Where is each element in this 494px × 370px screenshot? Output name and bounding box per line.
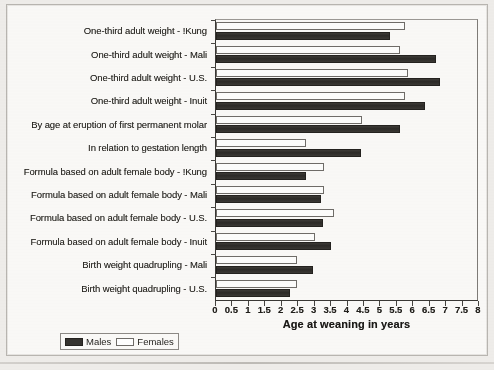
x-axis-tick-label: 1: [245, 304, 250, 315]
bar-row: [216, 207, 477, 230]
category-label: Formula based on adult female body - Inu…: [0, 230, 211, 253]
x-axis-tick-label: 7: [442, 304, 447, 315]
bar-row: [216, 184, 477, 207]
bar-males: [216, 289, 290, 297]
x-axis-title: Age at weaning in years: [215, 318, 478, 330]
bar-males: [216, 172, 306, 180]
legend-swatch-females: [116, 338, 134, 346]
y-axis-tick: [211, 160, 216, 161]
category-label: One-third adult weight - Inuit: [0, 89, 211, 112]
bar-females: [216, 116, 362, 124]
y-axis-tick: [211, 231, 216, 232]
x-axis-tick-label: 4: [344, 304, 349, 315]
bar-females: [216, 22, 405, 30]
category-label: In relation to gestation length: [0, 136, 211, 159]
bar-males: [216, 242, 331, 250]
category-label: One-third adult weight - !Kung: [0, 19, 211, 42]
bar-females: [216, 186, 324, 194]
legend-item-females: Females: [116, 336, 173, 347]
bar-rows: [216, 20, 477, 300]
bar-row: [216, 90, 477, 113]
category-label: One-third adult weight - Mali: [0, 42, 211, 65]
x-axis-tick-label: 4.5: [356, 304, 369, 315]
bar-row: [216, 160, 477, 183]
x-axis-tick-label: 0.5: [225, 304, 238, 315]
y-axis-tick: [211, 20, 216, 21]
bar-row: [216, 137, 477, 160]
y-axis-tick: [211, 277, 216, 278]
x-axis-tick-label: 2.5: [291, 304, 304, 315]
bar-females: [216, 163, 324, 171]
y-axis-tick: [211, 43, 216, 44]
bar-males: [216, 195, 321, 203]
y-axis-tick: [211, 137, 216, 138]
y-axis-tick: [211, 90, 216, 91]
bar-males: [216, 149, 361, 157]
bar-males: [216, 102, 425, 110]
category-label: Birth weight quadrupling - U.S.: [0, 276, 211, 299]
y-axis-tick: [211, 207, 216, 208]
y-axis-tick: [211, 67, 216, 68]
x-axis-tick-label: 3: [311, 304, 316, 315]
legend-item-males: Males: [65, 336, 111, 347]
category-label: Formula based on adult female body - U.S…: [0, 206, 211, 229]
bar-females: [216, 139, 306, 147]
bar-males: [216, 125, 400, 133]
bar-males: [216, 219, 323, 227]
legend-label-females: Females: [137, 336, 173, 347]
bar-males: [216, 32, 390, 40]
x-axis-tick-label: 2: [278, 304, 283, 315]
bar-row: [216, 254, 477, 277]
bar-females: [216, 256, 297, 264]
bar-females: [216, 69, 408, 77]
y-axis-tick: [211, 114, 216, 115]
x-axis-tick-label: 7.5: [455, 304, 468, 315]
y-axis-tick: [211, 254, 216, 255]
plot-area: [215, 19, 478, 300]
bar-row: [216, 114, 477, 137]
bar-males: [216, 266, 313, 274]
x-axis-tick-label: 6.5: [422, 304, 435, 315]
bar-row: [216, 277, 477, 300]
scanned-page-background: One-third adult weight - !KungOne-third …: [0, 0, 494, 370]
x-axis-tick-label: 5.5: [389, 304, 402, 315]
legend-label-males: Males: [86, 336, 111, 347]
category-label: Formula based on adult female body - Mal…: [0, 183, 211, 206]
bar-males: [216, 78, 440, 86]
bar-row: [216, 43, 477, 66]
category-label: Formula based on adult female body - !Ku…: [0, 159, 211, 182]
category-label-column: One-third adult weight - !KungOne-third …: [0, 19, 211, 300]
bar-males: [216, 55, 436, 63]
bar-females: [216, 280, 297, 288]
bar-females: [216, 46, 400, 54]
bar-chart: One-third adult weight - !KungOne-third …: [0, 0, 494, 370]
bar-females: [216, 233, 315, 241]
bar-row: [216, 20, 477, 43]
bar-row: [216, 231, 477, 254]
category-label: By age at eruption of first permanent mo…: [0, 113, 211, 136]
bar-females: [216, 92, 405, 100]
x-axis-tick-label: 1.5: [258, 304, 271, 315]
chart-legend: Males Females: [60, 333, 179, 350]
x-axis-line: [215, 300, 478, 301]
x-axis-tick-label: 6: [410, 304, 415, 315]
x-axis-tick-label: 8: [475, 304, 480, 315]
category-label: One-third adult weight - U.S.: [0, 66, 211, 89]
x-axis-tick-label: 5: [377, 304, 382, 315]
x-axis-tick-label: 0: [212, 304, 217, 315]
x-axis-tick-label: 3.5: [323, 304, 336, 315]
bar-row: [216, 67, 477, 90]
bar-females: [216, 209, 334, 217]
y-axis-tick: [211, 184, 216, 185]
legend-swatch-males: [65, 338, 83, 346]
category-label: Birth weight quadrupling - Mali: [0, 253, 211, 276]
x-axis-tick-labels: 00.511.522.533.544.555.566.577.58: [215, 304, 478, 318]
